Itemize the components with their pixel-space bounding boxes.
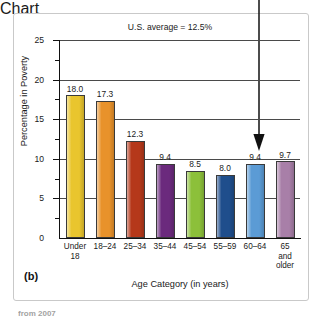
bar-slot: 9.7 (276, 40, 295, 238)
bar-value-label: 17.3 (97, 89, 113, 99)
bar-under-18[interactable] (66, 95, 85, 238)
bar-35–44[interactable] (156, 164, 175, 238)
bar-value-label: 18.0 (67, 84, 83, 94)
bar-slot: 18.0 (66, 40, 85, 238)
y-tick-20 (53, 80, 60, 81)
bar-value-label: 12.3 (127, 129, 143, 139)
bar-value-label: 8.5 (189, 159, 201, 169)
bar-25–34[interactable] (126, 141, 145, 238)
x-axis-line (59, 238, 301, 239)
bar-45–54[interactable] (186, 171, 205, 238)
y-tick-5 (53, 198, 60, 199)
bar-series: 18.017.312.39.48.58.09.49.7 (60, 40, 300, 238)
bar-slot: 12.3 (126, 40, 145, 238)
x-tick-label-line: 18 (57, 252, 93, 262)
bar-slot: 9.4 (156, 40, 175, 238)
bar-value-label: 8.0 (219, 163, 231, 173)
x-axis-title: Age Category (in years) (60, 279, 300, 289)
us-average-annotation: U.S. average = 12.5% (0, 22, 322, 32)
bar-60–64[interactable] (246, 164, 265, 238)
bar-slot: 17.3 (96, 40, 115, 238)
bar-slot: 8.0 (216, 40, 235, 238)
y-tick-label-0: 0 (4, 233, 44, 243)
y-tick-label-5: 5 (4, 193, 44, 203)
bar-18–24[interactable] (96, 101, 115, 238)
y-tick-label-20: 20 (4, 75, 44, 85)
y-tick-label-25: 25 (4, 35, 44, 45)
bar-value-label: 9.4 (249, 152, 261, 162)
bar-slot: 9.4 (246, 40, 265, 238)
bar-value-label: 9.4 (159, 152, 171, 162)
x-tick-label-line: older (267, 261, 303, 271)
caption-sliver: from 2007 (18, 309, 56, 318)
y-tick-15 (53, 119, 60, 120)
bar-55–59[interactable] (216, 175, 235, 238)
y-tick-10 (53, 159, 60, 160)
y-tick-25 (53, 40, 60, 41)
y-tick-label-10: 10 (4, 154, 44, 164)
x-tick-label: 65andolder (267, 242, 303, 271)
y-tick-label-15: 15 (4, 114, 44, 124)
bar-value-label: 9.7 (279, 150, 291, 160)
panel-label: (b) (24, 270, 38, 282)
bar-slot: 8.5 (186, 40, 205, 238)
x-tick-label-line: and (267, 252, 303, 262)
bar-65-and-older[interactable] (276, 161, 295, 238)
x-tick-label-line: 65 (267, 242, 303, 252)
